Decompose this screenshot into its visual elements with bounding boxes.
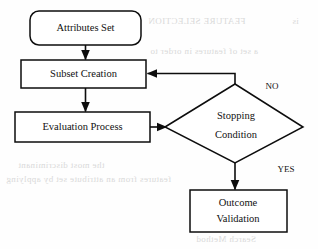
node-outcome-validation[interactable] [190,190,287,232]
node-stopping-condition-label-line1: Stopping [217,110,256,121]
edge-label-no: NO [266,81,279,91]
node-subset-creation-label: Subset Creation [50,68,118,79]
flowchart-canvas: FEATURE SELECTION is a set of features i… [0,0,318,249]
edge-label-yes: YES [277,164,294,174]
node-evaluation-process-label: Evaluation Process [42,121,122,132]
node-attributes-set-label: Attributes Set [56,22,114,33]
node-outcome-validation-label-line1: Outcome [219,197,258,208]
edge-stopping-no-to-subset [148,74,236,85]
node-stopping-condition-label-line2: Condition [215,129,258,140]
flowchart-graphic: Attributes Set Subset Creation Evaluatio… [0,0,318,249]
node-stopping-condition[interactable] [165,84,303,163]
node-outcome-validation-label-line2: Validation [216,213,260,224]
